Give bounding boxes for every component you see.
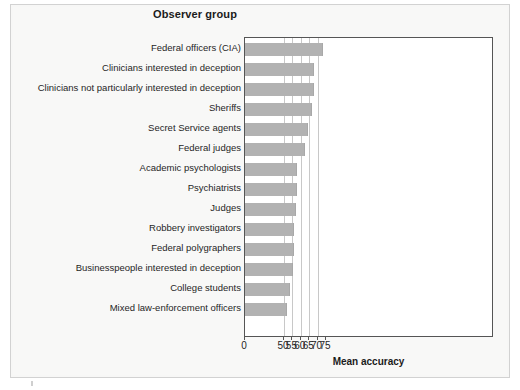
category-label: Academic psychologists xyxy=(5,163,241,173)
bar xyxy=(245,123,308,136)
x-tick-label: 0 xyxy=(241,340,247,351)
category-label: Federal officers (CIA) xyxy=(5,43,241,53)
bar xyxy=(245,143,305,156)
scan-artifact xyxy=(31,381,33,386)
bar xyxy=(245,263,293,276)
bar xyxy=(245,183,297,196)
category-label: Clinicians interested in deception xyxy=(5,63,241,73)
bar xyxy=(245,43,323,56)
x-axis-title: Mean accuracy xyxy=(244,356,493,367)
category-label: Businesspeople interested in deception xyxy=(5,263,241,273)
page-title: Observer group xyxy=(0,8,390,20)
bar xyxy=(245,163,297,176)
bar xyxy=(245,103,312,116)
bar xyxy=(245,283,290,296)
bar xyxy=(245,223,294,236)
category-label: College students xyxy=(5,283,241,293)
category-label: Federal polygraphers xyxy=(5,243,241,253)
bar xyxy=(245,243,294,256)
category-label: Secret Service agents xyxy=(5,123,241,133)
category-label: Mixed law-enforcement officers xyxy=(5,303,241,313)
x-tick-label: 75 xyxy=(319,340,330,351)
category-label: Federal judges xyxy=(5,143,241,153)
category-label: Psychiatrists xyxy=(5,183,241,193)
category-label: Clinicians not particularly interested i… xyxy=(5,83,241,93)
category-label: Robbery investigators xyxy=(5,223,241,233)
bar xyxy=(245,63,314,76)
bar xyxy=(245,203,296,216)
plot-area xyxy=(244,37,493,337)
gridline xyxy=(318,38,319,336)
bar xyxy=(245,83,314,96)
category-labels: Federal officers (CIA)Clinicians interes… xyxy=(0,37,241,337)
category-label: Judges xyxy=(5,203,241,213)
bar xyxy=(245,303,287,316)
x-axis-ticks: 0505560657075 xyxy=(244,337,493,353)
category-label: Sheriffs xyxy=(5,103,241,113)
